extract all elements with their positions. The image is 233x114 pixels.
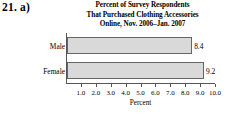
chart-title: Percent of Survey Respondents That Purch… [55,1,230,30]
x-tick-mark [81,84,82,87]
x-tick-mark [215,84,216,87]
chart-title-line-2: That Purchased Clothing Accessories [55,11,230,21]
plot-area: Male 8.4 Female 9.2 1.02.03.04.05.06.07.… [66,33,215,83]
category-label-male: Male [5,38,65,55]
category-label-female: Female [5,63,65,80]
x-tick-mark [185,84,186,87]
figure-container: 21. a) Percent of Survey Respondents Tha… [0,0,233,114]
x-tick-mark [200,84,201,87]
x-tick-label: 10.0 [205,88,225,97]
value-label-female: 9.2 [206,63,215,80]
x-tick-mark [155,84,156,87]
x-tick-mark [141,84,142,87]
x-tick-mark [111,84,112,87]
x-tick-mark [126,84,127,87]
chart-title-line-3: Online, Nov. 2006–Jan. 2007 [55,20,230,30]
bar-male: Male 8.4 [67,37,192,54]
x-tick-mark [96,84,97,87]
chart-title-line-1: Percent of Survey Respondents [55,1,230,11]
x-axis-title: Percent [66,99,215,107]
problem-number-label: 21. a) [2,1,30,13]
bar-female: Female 9.2 [67,62,204,79]
value-label-male: 8.4 [194,38,203,55]
x-tick-mark [170,84,171,87]
